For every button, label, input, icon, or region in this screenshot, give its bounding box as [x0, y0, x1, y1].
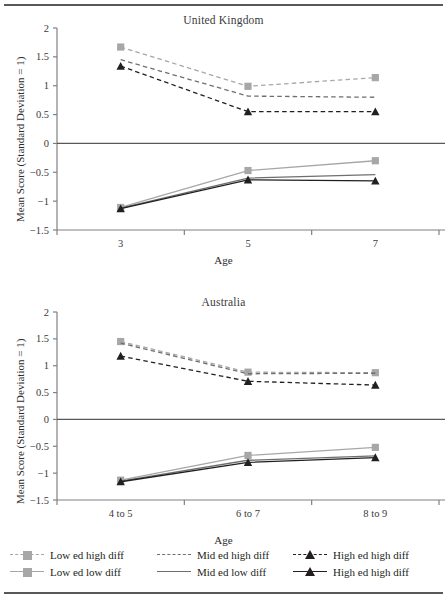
data-point-marker-square: [244, 83, 251, 90]
y-tick-label: −1.5: [30, 495, 49, 506]
series-low-ed-low-diff: [117, 157, 379, 211]
data-point-marker-square: [372, 74, 379, 81]
series-high-ed-low-diff: [116, 176, 379, 213]
data-point-marker-square: [244, 167, 251, 174]
y-tick-label: 2: [44, 307, 49, 318]
legend-high-ed-low-diff[interactable]: High ed high diff: [293, 563, 409, 580]
legend-symbol-triangle-dashed-icon: [293, 548, 327, 562]
y-tick-label: −0.5: [30, 441, 49, 452]
plot-area-uk: 21.510.50−0.5−1−1.5357: [0, 10, 447, 276]
legend-symbol-none-dashed-icon: [157, 548, 191, 562]
data-point-marker-triangle: [116, 62, 124, 70]
chart-panel-united-kingdom: United Kingdom Mean Score (Standard Devi…: [0, 10, 447, 286]
x-axis-title-au: Age: [0, 534, 447, 546]
plot-area-au: 21.510.50−0.5−1−1.54 to 56 to 78 to 9: [0, 296, 447, 546]
y-tick-label: 0.5: [36, 387, 49, 398]
y-tick-label: −1: [38, 468, 49, 479]
legend-label: Low ed low diff: [44, 566, 121, 578]
chart-panel-australia: Australia Mean Score (Standard Deviation…: [0, 296, 447, 526]
series-mid-ed-high-diff: [121, 60, 376, 98]
legend-symbol-square-dashed-icon: [10, 548, 44, 562]
legend-high-ed-high-diff[interactable]: High ed high diff: [293, 546, 409, 563]
legend-mid-ed-low-diff[interactable]: Mid ed low diff: [157, 563, 269, 580]
y-tick-label: −1: [38, 196, 49, 207]
y-tick-label: 1: [44, 360, 49, 371]
chart-svg-au: 21.510.50−0.5−1−1.54 to 56 to 78 to 9: [0, 296, 447, 542]
legend-label: Mid ed low diff: [191, 566, 266, 578]
y-tick-label: 0.5: [36, 109, 49, 120]
legend-column-2: Mid ed high diffMid ed low diff: [157, 546, 269, 580]
legend-symbol-triangle-solid-icon: [293, 565, 327, 579]
data-point-marker-triangle: [244, 107, 252, 115]
legend-column-3: High ed high diffHigh ed high diff: [293, 546, 409, 580]
legend-label: Mid ed high diff: [191, 549, 269, 561]
legend-symbol-none-solid-icon: [157, 565, 191, 579]
y-tick-label: 2: [44, 23, 49, 34]
y-tick-label: 0: [44, 138, 49, 149]
legend-low-ed-high-diff[interactable]: Low ed high diff: [10, 546, 124, 563]
data-point-marker-square: [244, 452, 251, 459]
chart-legend: Low ed high diffLow ed low diffMid ed hi…: [0, 546, 447, 590]
y-tick-label: 1: [44, 80, 49, 91]
legend-mid-ed-high-diff[interactable]: Mid ed high diff: [157, 546, 269, 563]
data-point-marker-square: [244, 369, 251, 376]
x-tick-label: 7: [373, 238, 378, 249]
legend-label: High ed high diff: [327, 566, 409, 578]
x-tick-label: 6 to 7: [236, 508, 260, 519]
top-rule: [4, 4, 443, 6]
legend-column-1: Low ed high diffLow ed low diff: [10, 546, 124, 580]
x-tick-label: 3: [118, 238, 123, 249]
x-tick-label: 4 to 5: [109, 508, 133, 519]
x-axis-title-uk: Age: [0, 254, 447, 266]
data-point-marker-triangle: [116, 352, 124, 360]
x-tick-label: 5: [245, 238, 250, 249]
y-tick-label: −0.5: [30, 167, 49, 178]
y-tick-label: 0: [44, 414, 49, 425]
legend-low-ed-low-diff[interactable]: Low ed low diff: [10, 563, 124, 580]
series-low-ed-high-diff: [117, 43, 379, 89]
series-low-ed-high-diff: [117, 338, 379, 376]
chart-svg-uk: 21.510.50−0.5−1−1.5357: [0, 10, 447, 272]
data-point-marker-square: [372, 157, 379, 164]
legend-symbol-square-solid-icon: [10, 565, 44, 579]
legend-label: High ed high diff: [327, 549, 409, 561]
y-tick-label: 1.5: [36, 333, 49, 344]
bottom-rule: [4, 592, 443, 594]
data-point-marker-triangle: [371, 107, 379, 115]
x-tick-label: 8 to 9: [363, 508, 387, 519]
data-point-marker-square: [117, 43, 124, 50]
y-tick-label: −1.5: [30, 225, 49, 236]
legend-label: Low ed high diff: [44, 549, 124, 561]
y-tick-label: 1.5: [36, 51, 49, 62]
data-point-marker-square: [372, 444, 379, 451]
